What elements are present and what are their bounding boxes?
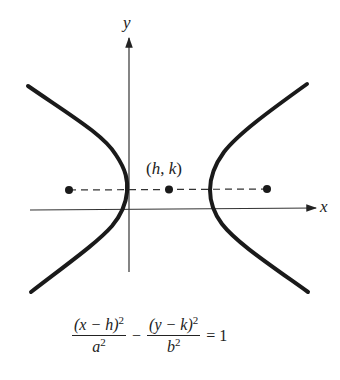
center-point: [165, 186, 173, 194]
hyperbola-right-branch: [210, 84, 308, 292]
denominator-b: b2: [167, 336, 181, 356]
center-h: h: [152, 159, 161, 178]
x-axis: [30, 208, 316, 210]
y-axis-label: y: [123, 14, 131, 31]
right-focus-point: [263, 185, 271, 193]
denominator-a: a2: [92, 336, 106, 356]
equals-sign: =: [206, 327, 215, 345]
minus-operator: −: [132, 327, 141, 345]
comma: ,: [160, 159, 169, 178]
fraction-y-term: (y − k)2 b2: [147, 316, 200, 356]
paren-close: ): [176, 159, 182, 178]
hyperbola-left-branch: [28, 86, 127, 292]
center-label: (h, k): [146, 160, 182, 177]
fraction-x-term: (x − h)2 a2: [72, 316, 126, 356]
left-focus-point: [65, 186, 73, 194]
hyperbola-equation: (x − h)2 a2 − (y − k)2 b2 = 1: [70, 316, 270, 356]
x-axis-label: x: [320, 198, 328, 215]
equation-rhs: 1: [219, 327, 227, 345]
numerator-y: (y − k)2: [147, 316, 200, 336]
numerator-x: (x − h)2: [72, 316, 126, 336]
